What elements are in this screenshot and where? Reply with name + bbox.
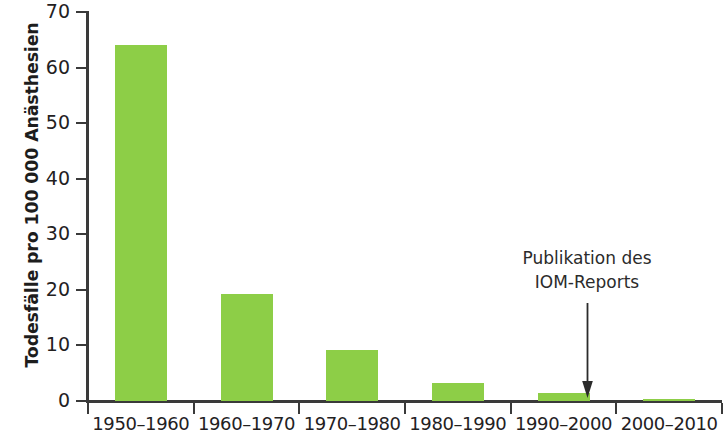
annotation-label: Publikation des IOM-Reports (492, 246, 682, 294)
y-axis-tick-label: 50 (30, 113, 70, 132)
y-axis-tick-label: 10 (30, 335, 70, 354)
y-axis-tick (76, 344, 87, 346)
down-arrow-icon (581, 303, 594, 399)
bar (326, 350, 378, 401)
y-axis-tick (76, 67, 87, 69)
y-axis-tick (76, 122, 87, 124)
annotation-line-1: Publikation des (492, 246, 682, 270)
y-axis-tick (76, 178, 87, 180)
y-axis-tick-label: 20 (30, 280, 70, 299)
y-axis-tick-label: 60 (30, 58, 70, 77)
bar (643, 399, 695, 401)
y-axis-tick-label: 40 (30, 169, 70, 188)
bar (432, 383, 484, 401)
x-axis-label: 1970–1980 (299, 413, 405, 434)
y-axis-tick-label: 0 (30, 391, 70, 410)
bar (221, 294, 273, 401)
x-axis-label: 1950–1960 (88, 413, 194, 434)
bar (115, 45, 167, 401)
y-axis-tick-label: 30 (30, 224, 70, 243)
bar-chart: Todesfälle pro 100 000 Anästhesien 01020… (0, 0, 725, 436)
x-axis-label: 1990–2000 (511, 413, 617, 434)
y-axis-tick (76, 11, 87, 13)
y-axis-tick (76, 233, 87, 235)
x-axis-label: 1960–1970 (194, 413, 300, 434)
y-axis-tick-label: 70 (30, 2, 70, 21)
y-axis-tick (76, 289, 87, 291)
x-axis-label: 2000–2010 (616, 413, 722, 434)
annotation-line-2: IOM-Reports (492, 270, 682, 294)
y-axis-tick (76, 400, 87, 402)
x-axis-label: 1980–1990 (405, 413, 511, 434)
